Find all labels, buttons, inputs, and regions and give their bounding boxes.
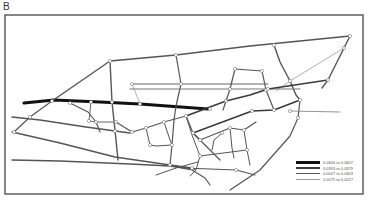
network-node: [260, 69, 263, 72]
network-node: [250, 109, 253, 112]
network-node: [266, 87, 269, 90]
network-node: [245, 148, 248, 151]
network-node: [234, 168, 237, 171]
legend-item: 0.0075 to 0.0227: [296, 177, 353, 183]
network-node: [108, 59, 111, 62]
network-node: [242, 128, 245, 131]
network-node: [50, 99, 53, 102]
network-node: [228, 126, 231, 129]
network-node: [168, 163, 171, 166]
network-node: [296, 116, 299, 119]
network-node: [174, 53, 177, 56]
legend-swatch-icon: [296, 161, 320, 164]
network-node: [228, 87, 231, 90]
network-node: [130, 130, 133, 133]
network-node: [342, 46, 345, 49]
network-node: [170, 143, 173, 146]
network-node: [233, 67, 236, 70]
network-node: [138, 102, 141, 105]
network-node: [326, 78, 329, 81]
network-node: [191, 131, 194, 134]
network-node: [28, 115, 31, 118]
network-node: [144, 126, 147, 129]
network-node: [148, 143, 151, 146]
network-node: [220, 131, 223, 134]
network-node: [179, 82, 182, 85]
network-node: [348, 34, 351, 37]
network-node: [12, 130, 15, 133]
network-node: [198, 138, 201, 141]
network-node: [298, 98, 301, 101]
network-node: [184, 114, 187, 117]
network-node: [94, 120, 97, 123]
network-node: [272, 43, 275, 46]
network-node: [114, 120, 117, 123]
network-node: [190, 166, 193, 169]
legend: 0.0606 to 0.06070.0393 to 0.03790.0027 t…: [296, 160, 353, 182]
network-node: [208, 107, 211, 110]
legend-swatch-icon: [296, 173, 320, 174]
network-node: [224, 99, 227, 102]
network-node: [198, 154, 201, 157]
network-node: [68, 101, 71, 104]
network-node: [89, 100, 92, 103]
legend-label: 0.0075 to 0.0227: [323, 177, 353, 183]
network-node: [288, 79, 291, 82]
network-node: [162, 120, 165, 123]
network-node: [272, 108, 275, 111]
network-node: [288, 109, 291, 112]
legend-swatch-icon: [296, 179, 320, 180]
network-node: [110, 100, 113, 103]
network-node: [130, 82, 133, 85]
network-node: [113, 129, 116, 132]
legend-swatch-icon: [296, 167, 320, 169]
network-node: [87, 119, 90, 122]
